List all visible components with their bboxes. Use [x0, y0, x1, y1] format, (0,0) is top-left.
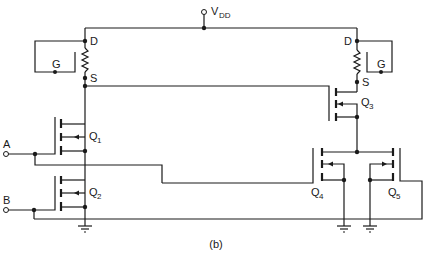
input-a-label: A — [3, 138, 11, 150]
right-source-label: S — [362, 76, 369, 88]
vdd-label: V — [211, 5, 219, 17]
node-wire-q3-gate — [85, 86, 329, 121]
svg-text:3: 3 — [369, 102, 374, 111]
transistor-q4: Q 4 — [162, 148, 346, 226]
input-b-terminal: B — [3, 194, 36, 219]
vdd-terminal: V DD — [202, 5, 231, 30]
svg-text:5: 5 — [396, 192, 401, 201]
svg-text:2: 2 — [97, 192, 102, 201]
ground-icon — [363, 226, 377, 232]
arrow-icon — [328, 162, 333, 167]
resistor-icon — [82, 48, 88, 72]
arrow-icon — [382, 162, 387, 167]
transistor-q1: Q 1 — [6, 117, 102, 155]
arrow-icon — [338, 102, 343, 107]
svg-text:4: 4 — [319, 192, 324, 201]
right-load-transistor: D G S — [344, 28, 392, 92]
transistor-q3: Q 3 — [336, 88, 374, 152]
circuit-diagram: V DD D G S D G S — [0, 0, 425, 253]
left-drain-label: D — [90, 35, 98, 47]
left-source-label: S — [90, 72, 97, 84]
vdd-subscript: DD — [219, 11, 231, 20]
left-gate-label: G — [52, 58, 61, 70]
ground-icon — [337, 226, 351, 232]
input-b-label: B — [3, 194, 10, 206]
figure-caption: (b) — [209, 238, 222, 250]
right-gate-label: G — [377, 58, 386, 70]
resistor-icon — [354, 50, 360, 74]
arrow-icon — [74, 135, 79, 140]
arrow-icon — [74, 191, 79, 196]
ground-icon — [78, 226, 92, 232]
svg-text:1: 1 — [97, 136, 102, 145]
input-a-terminal: A — [3, 138, 162, 183]
right-drain-label: D — [344, 35, 352, 47]
